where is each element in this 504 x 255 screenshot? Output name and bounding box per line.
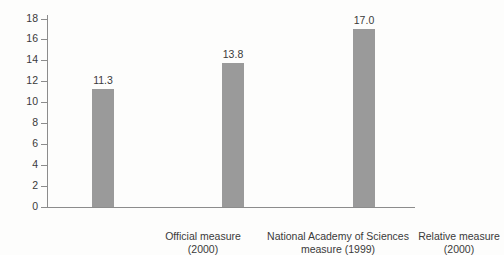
y-tick-label-16: 16: [26, 32, 38, 44]
category-label-line2-2: (2000): [364, 243, 504, 255]
y-tick-0: 0: [41, 207, 47, 208]
category-label-line1-0: Official measure: [165, 230, 241, 242]
bar-nas-measure: 13.8: [222, 63, 244, 207]
y-tick-14: 14: [41, 60, 47, 61]
y-tick-16: 16: [41, 39, 47, 40]
y-tick-6: 6: [41, 144, 47, 145]
y-tick-label-18: 18: [26, 12, 38, 24]
y-tick-10: 10: [41, 102, 47, 103]
x-axis-line: [47, 207, 415, 208]
y-tick-label-12: 12: [26, 74, 38, 86]
bar-relative-measure: 17.0: [353, 29, 375, 207]
y-tick-label-4: 4: [32, 158, 38, 170]
bar-value-label-1: 13.8: [223, 48, 243, 60]
y-tick-4: 4: [41, 165, 47, 166]
y-tick-label-0: 0: [32, 200, 38, 212]
y-tick-8: 8: [41, 123, 47, 124]
y-tick-2: 2: [41, 186, 47, 187]
y-tick-label-10: 10: [26, 95, 38, 107]
y-tick-label-8: 8: [32, 116, 38, 128]
y-tick-label-14: 14: [26, 53, 38, 65]
bar-value-label-0: 11.3: [93, 74, 113, 86]
y-axis-line: [47, 15, 48, 207]
bar-official-measure: 11.3: [92, 89, 114, 207]
bar-value-label-2: 17.0: [354, 14, 374, 26]
category-label-line1-2: Relative measure: [418, 230, 500, 242]
y-tick-12: 12: [41, 81, 47, 82]
plot-area: 0 2 4 6 8 10 12 14 16 18 11.3: [47, 19, 415, 207]
y-tick-18: 18: [41, 19, 47, 20]
y-tick-label-6: 6: [32, 137, 38, 149]
y-tick-label-2: 2: [32, 179, 38, 191]
